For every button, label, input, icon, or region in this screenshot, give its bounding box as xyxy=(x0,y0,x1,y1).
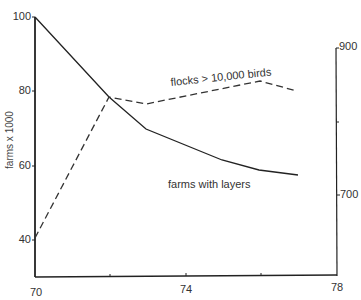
x-tick-70: 70 xyxy=(30,286,42,298)
flocks-series-label: flocks > 10,000 birds xyxy=(170,65,272,88)
x-tick-78: 78 xyxy=(331,281,343,293)
line-chart: 100 80 60 40 900 700 70 74 78 farms x 10… xyxy=(0,0,361,300)
x-tick-74: 74 xyxy=(180,283,192,295)
y-right-tick-700: 700 xyxy=(340,188,358,200)
y-tick-80: 80 xyxy=(19,84,31,96)
y-right-tick-900: 900 xyxy=(339,40,357,52)
y-tick-40: 40 xyxy=(19,233,31,245)
right-y-axis xyxy=(336,48,337,276)
series-farms-with-layers xyxy=(35,17,298,175)
y-axis-label: farms x 1000 xyxy=(4,111,15,169)
farms-series-label: farms with layers xyxy=(168,178,251,190)
y-tick-100: 100 xyxy=(13,10,31,22)
series-flocks-10000-birds xyxy=(35,81,297,238)
y-tick-60: 60 xyxy=(19,159,31,171)
